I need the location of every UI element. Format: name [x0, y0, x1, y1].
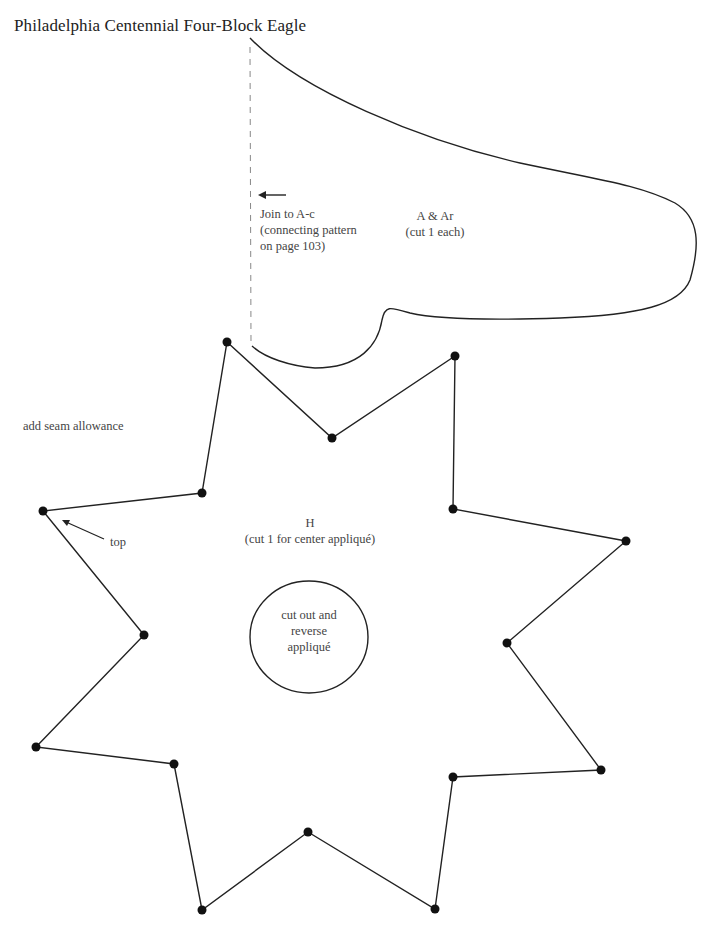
join-note-line: Join to A-c [260, 206, 357, 222]
top-note: top [110, 534, 126, 550]
piece-a-instruction: (cut 1 each) [380, 224, 490, 240]
pattern-drawing [0, 0, 716, 934]
piece-a-outline [250, 38, 696, 368]
circle-note: cut out and reverse appliqué [259, 607, 359, 655]
join-dashed-line [250, 47, 251, 343]
join-note-line: on page 103) [260, 238, 357, 254]
circle-note-line: reverse [259, 623, 359, 639]
seam-allowance-note: add seam allowance [23, 418, 124, 434]
join-note-line: (connecting pattern [260, 222, 357, 238]
left-arrow-icon [258, 191, 286, 199]
circle-note-line: cut out and [259, 607, 359, 623]
circle-note-line: appliqué [259, 639, 359, 655]
piece-h-name: H [220, 515, 400, 531]
piece-a-label: A & Ar (cut 1 each) [380, 208, 490, 240]
join-note: Join to A-c (connecting pattern on page … [260, 206, 357, 254]
piece-a-name: A & Ar [380, 208, 490, 224]
piece-h-instruction: (cut 1 for center appliqué) [220, 531, 400, 547]
top-arrow-icon [62, 520, 104, 539]
piece-h-label: H (cut 1 for center appliqué) [220, 515, 400, 547]
